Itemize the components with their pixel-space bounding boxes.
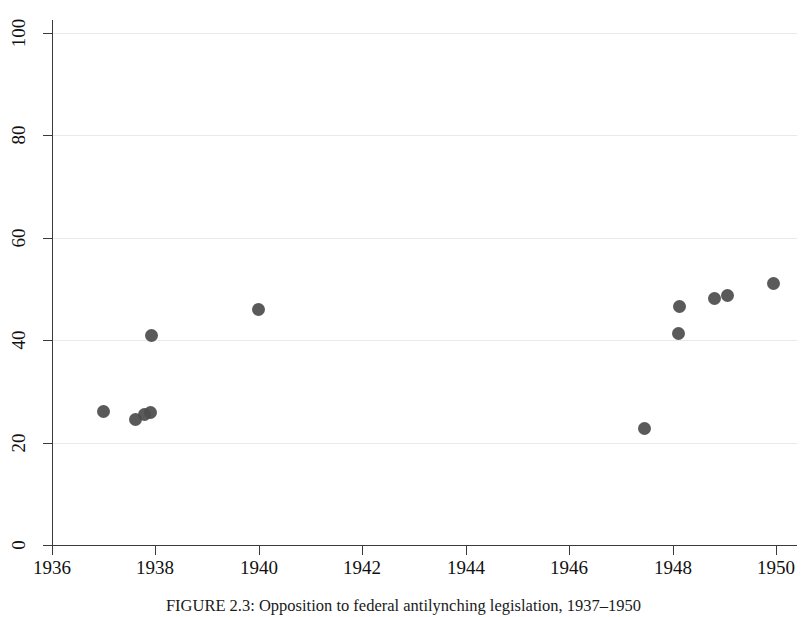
- y-tick-80: [43, 135, 52, 136]
- caption-text: Opposition to federal antilynching legis…: [259, 596, 641, 615]
- x-tick-label-1948: 1948: [638, 557, 708, 579]
- x-tick-1936: [52, 546, 53, 555]
- y-tick-label-wrap-20: 20: [0, 443, 40, 444]
- y-tick-label-wrap-40: 40: [0, 340, 40, 341]
- y-tick-100: [43, 33, 52, 34]
- x-tick-label-1950: 1950: [741, 557, 807, 579]
- caption-label: FIGURE 2.3:: [166, 596, 255, 615]
- x-tick-1944: [466, 546, 467, 555]
- x-tick-label-1942: 1942: [327, 557, 397, 579]
- x-tick-label-1946: 1946: [534, 557, 604, 579]
- x-tick-label-1936: 1936: [17, 557, 87, 579]
- scatter-point: [252, 303, 265, 316]
- gridline-y-40: [52, 340, 797, 341]
- x-tick-label-1938: 1938: [120, 557, 190, 579]
- x-tick-1940: [259, 546, 260, 555]
- scatter-point: [673, 300, 686, 313]
- y-tick-label-wrap-100: 100: [0, 33, 40, 34]
- y-tick-label-wrap-0: 0: [0, 545, 40, 546]
- figure-container: 020406080100 193619381940194219441946194…: [0, 0, 807, 617]
- scatter-point: [144, 406, 157, 419]
- x-tick-label-1944: 1944: [431, 557, 501, 579]
- x-tick-1942: [362, 546, 363, 555]
- gridline-y-60: [52, 238, 797, 239]
- y-axis-line: [52, 20, 53, 545]
- y-tick-label-wrap-80: 80: [0, 135, 40, 136]
- scatter-point: [708, 292, 721, 305]
- x-tick-1948: [673, 546, 674, 555]
- y-tick-60: [43, 238, 52, 239]
- gridline-y-100: [52, 33, 797, 34]
- scatter-point: [767, 277, 780, 290]
- x-tick-1946: [569, 546, 570, 555]
- scatter-point: [145, 329, 158, 342]
- scatter-point: [97, 405, 110, 418]
- scatter-point: [672, 327, 685, 340]
- scatter-point: [721, 289, 734, 302]
- x-tick-label-1940: 1940: [224, 557, 294, 579]
- y-tick-40: [43, 340, 52, 341]
- x-tick-1950: [776, 546, 777, 555]
- y-tick-20: [43, 443, 52, 444]
- y-tick-0: [43, 545, 52, 546]
- x-tick-1938: [155, 546, 156, 555]
- gridline-y-20: [52, 443, 797, 444]
- scatter-point: [638, 422, 651, 435]
- y-tick-label-wrap-60: 60: [0, 238, 40, 239]
- figure-caption: FIGURE 2.3: Opposition to federal antily…: [0, 596, 807, 616]
- gridline-y-80: [52, 135, 797, 136]
- x-axis-line: [52, 545, 797, 546]
